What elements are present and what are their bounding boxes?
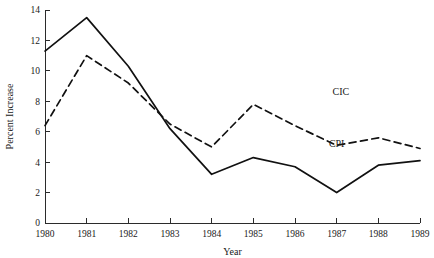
x-tick-label: 1985 (244, 229, 263, 239)
x-tick-label: 1986 (286, 229, 305, 239)
line-chart: 02468101214 1980198119821983198419851986… (0, 0, 434, 258)
series-group (45, 18, 420, 193)
x-axis: 1980198119821983198419851986198719881989 (36, 218, 430, 239)
y-tick-label: 8 (35, 97, 40, 107)
x-tick-label: 1984 (202, 229, 221, 239)
y-axis-title: Percent Increase (4, 83, 15, 149)
series-label-cic: CIC (332, 86, 349, 97)
x-tick-label: 1981 (77, 229, 96, 239)
series-label-cpi: CPI (329, 138, 345, 149)
x-tick-group: 1980198119821983198419851986198719881989 (36, 218, 430, 239)
series-line-cic (45, 56, 420, 149)
y-tick-group: 02468101214 (31, 5, 51, 228)
y-tick-label: 14 (31, 5, 41, 15)
x-axis-title: Year (223, 246, 242, 257)
y-tick-label: 4 (35, 158, 40, 168)
x-tick-label: 1988 (369, 229, 388, 239)
y-tick-label: 2 (35, 188, 40, 198)
x-tick-label: 1983 (161, 229, 180, 239)
x-tick-label: 1989 (411, 229, 430, 239)
y-axis: 02468101214 (31, 5, 51, 228)
chart-canvas: 02468101214 1980198119821983198419851986… (0, 0, 434, 258)
y-tick-label: 6 (35, 127, 40, 137)
series-line-cpi (45, 18, 420, 193)
y-tick-label: 0 (35, 218, 40, 228)
y-tick-label: 12 (31, 36, 41, 46)
x-tick-label: 1980 (36, 229, 55, 239)
y-tick-label: 10 (31, 66, 41, 76)
x-tick-label: 1982 (119, 229, 138, 239)
x-tick-label: 1987 (327, 229, 346, 239)
series-label-group: CPICIC (329, 86, 350, 149)
